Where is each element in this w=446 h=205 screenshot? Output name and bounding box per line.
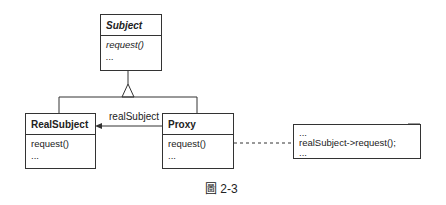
class-realsubject: RealSubject request() ...: [25, 113, 96, 169]
operation-ellipsis: ...: [31, 150, 90, 162]
class-proxy-operations: request() ...: [163, 135, 233, 165]
class-proxy: Proxy request() ...: [162, 113, 234, 169]
operation: request(): [106, 39, 156, 51]
note-box: ... realSubject->request(); ...: [293, 124, 421, 159]
association-arrowhead-icon: [95, 123, 102, 129]
class-proxy-name: Proxy: [163, 114, 233, 135]
class-subject-name: Subject: [101, 15, 161, 36]
operation-ellipsis: ...: [106, 51, 156, 63]
class-subject-operations: request() ...: [101, 36, 161, 66]
note-line: ...: [299, 148, 415, 158]
note-line: realSubject->request();: [299, 138, 415, 148]
figure-caption: 圖 2-3: [205, 179, 238, 196]
class-realsubject-operations: request() ...: [26, 135, 95, 165]
class-subject: Subject request() ...: [100, 14, 162, 71]
operation-ellipsis: ...: [168, 150, 228, 162]
connector-layer: [0, 0, 446, 205]
class-realsubject-name: RealSubject: [26, 114, 95, 135]
operation: request(): [168, 138, 228, 150]
operation: request(): [31, 138, 90, 150]
inheritance-triangle-icon: [122, 84, 134, 97]
association-label: realSubject: [109, 111, 159, 122]
